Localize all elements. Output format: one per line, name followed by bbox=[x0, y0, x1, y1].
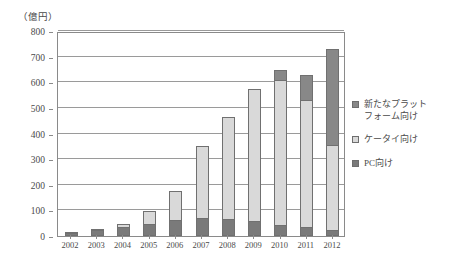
y-tick-label-200: 200 bbox=[31, 181, 45, 191]
gridline-800 bbox=[58, 30, 344, 31]
bar-segment-2006-ケータイ向け bbox=[169, 191, 182, 220]
bar-segment-2004-PC向け bbox=[117, 227, 130, 236]
y-tick-mark-0 bbox=[49, 237, 53, 238]
bar-group-2007 bbox=[196, 146, 209, 236]
bar-segment-2007-ケータイ向け bbox=[196, 146, 209, 218]
bar-group-2003 bbox=[91, 229, 104, 236]
x-tick-mark-2012 bbox=[332, 235, 333, 239]
x-tick-label-2006: 2006 bbox=[166, 240, 183, 250]
legend-label-0: 新たなプラット フォーム向け bbox=[364, 99, 427, 122]
bar-segment-2008-ケータイ向け bbox=[222, 117, 235, 219]
bar-segment-2010-PC向け bbox=[274, 225, 287, 236]
bar-segment-2011-PC向け bbox=[300, 227, 313, 236]
y-tick-label-400: 400 bbox=[31, 130, 45, 140]
x-tick-label-2012: 2012 bbox=[323, 240, 340, 250]
bar-segment-2008-PC向け bbox=[222, 219, 235, 236]
x-tick-mark-2005 bbox=[149, 235, 150, 239]
bar-segment-2012-新たなプラットフォーム向け bbox=[326, 49, 339, 145]
bar-group-2011 bbox=[300, 75, 313, 236]
y-tick-mark-800 bbox=[49, 32, 53, 33]
y-tick-label-100: 100 bbox=[31, 206, 45, 216]
bar-segment-2005-PC向け bbox=[143, 224, 156, 236]
y-tick-mark-700 bbox=[49, 58, 53, 59]
plot-area bbox=[57, 32, 345, 237]
x-tick-label-2004: 2004 bbox=[114, 240, 131, 250]
x-tick-label-2005: 2005 bbox=[140, 240, 157, 250]
bar-segment-2012-PC向け bbox=[326, 230, 339, 236]
bar-segment-2006-PC向け bbox=[169, 220, 182, 236]
y-axis-unit-label: （億円） bbox=[18, 9, 58, 23]
y-tick-label-0: 0 bbox=[40, 232, 45, 242]
legend-swatch-icon-1 bbox=[352, 136, 359, 143]
y-tick-label-300: 300 bbox=[31, 155, 45, 165]
x-tick-label-2003: 2003 bbox=[88, 240, 105, 250]
y-tick-label-700: 700 bbox=[31, 53, 45, 63]
x-axis: 2002200320042005200620072008200920102011… bbox=[57, 240, 345, 258]
bar-group-2006 bbox=[169, 191, 182, 236]
stacked-bar-chart: （億円） 0100200300400500600700800 200220032… bbox=[0, 0, 463, 269]
bar-group-2002 bbox=[65, 232, 78, 236]
bar-group-2009 bbox=[248, 89, 261, 236]
x-tick-label-2008: 2008 bbox=[219, 240, 236, 250]
x-tick-mark-2011 bbox=[306, 235, 307, 239]
bar-segment-2010-ケータイ向け bbox=[274, 80, 287, 224]
x-tick-mark-2003 bbox=[96, 235, 97, 239]
x-tick-mark-2008 bbox=[227, 235, 228, 239]
y-tick-label-500: 500 bbox=[31, 104, 45, 114]
bar-segment-2003-PC向け bbox=[91, 230, 104, 236]
bar-group-2005 bbox=[143, 211, 156, 236]
legend-swatch-icon-0 bbox=[352, 101, 359, 108]
legend-item-2[interactable]: PC向け bbox=[352, 158, 460, 170]
chart-legend: 新たなプラット フォーム向けケータイ向けPC向け bbox=[352, 99, 460, 181]
bar-group-2004 bbox=[117, 224, 130, 236]
bar-group-2012 bbox=[326, 49, 339, 236]
x-tick-label-2011: 2011 bbox=[297, 240, 314, 250]
y-tick-mark-200 bbox=[49, 186, 53, 187]
bar-segment-2005-ケータイ向け bbox=[143, 211, 156, 223]
legend-swatch-icon-2 bbox=[352, 160, 359, 167]
legend-item-0[interactable]: 新たなプラット フォーム向け bbox=[352, 99, 460, 122]
y-tick-label-600: 600 bbox=[31, 78, 45, 88]
legend-item-1[interactable]: ケータイ向け bbox=[352, 134, 460, 146]
x-tick-label-2010: 2010 bbox=[271, 240, 288, 250]
legend-label-2: PC向け bbox=[364, 158, 393, 170]
y-tick-mark-100 bbox=[49, 211, 53, 212]
y-axis: 0100200300400500600700800 bbox=[0, 32, 53, 237]
legend-label-1: ケータイ向け bbox=[364, 134, 418, 146]
bar-segment-2011-ケータイ向け bbox=[300, 100, 313, 227]
bar-group-2008 bbox=[222, 117, 235, 236]
bar-segment-2009-PC向け bbox=[248, 221, 261, 236]
x-tick-mark-2002 bbox=[70, 235, 71, 239]
y-tick-mark-500 bbox=[49, 109, 53, 110]
bar-segment-2009-ケータイ向け bbox=[248, 89, 261, 221]
x-tick-label-2009: 2009 bbox=[245, 240, 262, 250]
y-tick-mark-600 bbox=[49, 83, 53, 84]
y-tick-label-800: 800 bbox=[31, 27, 45, 37]
bar-segment-2010-新たなプラットフォーム向け bbox=[274, 70, 287, 80]
x-tick-mark-2010 bbox=[280, 235, 281, 239]
bars-layer bbox=[58, 33, 344, 236]
x-tick-label-2002: 2002 bbox=[62, 240, 79, 250]
y-tick-mark-300 bbox=[49, 160, 53, 161]
x-tick-label-2007: 2007 bbox=[193, 240, 210, 250]
y-tick-mark-400 bbox=[49, 135, 53, 136]
bar-group-2010 bbox=[274, 70, 287, 236]
bar-segment-2007-PC向け bbox=[196, 218, 209, 236]
x-tick-mark-2006 bbox=[175, 235, 176, 239]
x-tick-mark-2004 bbox=[122, 235, 123, 239]
x-tick-mark-2009 bbox=[253, 235, 254, 239]
bar-segment-2011-新たなプラットフォーム向け bbox=[300, 75, 313, 99]
x-tick-mark-2007 bbox=[201, 235, 202, 239]
bar-segment-2002-PC向け bbox=[65, 233, 78, 236]
bar-segment-2012-ケータイ向け bbox=[326, 145, 339, 231]
